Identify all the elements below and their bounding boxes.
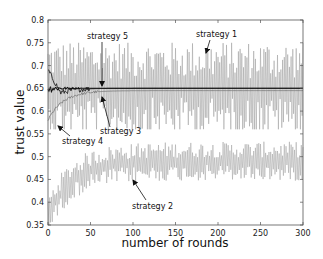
trust-value-chart: 0501001502002503000.350.40.450.50.550.60…: [0, 0, 323, 259]
x-tick-label: 250: [253, 229, 268, 238]
y-tick-label: 0.65: [26, 84, 44, 93]
y-tick-label: 0.6: [31, 107, 44, 116]
x-tick-label: 300: [295, 229, 310, 238]
y-tick-label: 0.55: [26, 130, 44, 139]
series-layer: [48, 43, 303, 225]
y-tick-label: 0.75: [26, 39, 44, 48]
annotation-strategy-2: strategy 2: [132, 202, 173, 211]
y-tick-label: 0.35: [26, 221, 44, 230]
x-tick-label: 0: [45, 229, 50, 238]
x-tick-label: 50: [85, 229, 95, 238]
y-tick-label: 0.45: [26, 175, 44, 184]
arrow-strategy-2: [133, 180, 146, 200]
annotation-strategy-4: strategy 4: [62, 137, 103, 146]
y-axis-label: trust value: [13, 90, 27, 155]
annotation-strategy-3: strategy 3: [100, 127, 141, 136]
x-axis-label: number of rounds: [121, 236, 228, 250]
y-tick-label: 0.4: [31, 198, 44, 207]
y-tick-label: 0.7: [31, 62, 44, 71]
annotation-strategy-1: strategy 1: [196, 30, 237, 39]
annotation-strategy-5: strategy 5: [87, 32, 128, 41]
series-strategy-2: [48, 142, 303, 226]
y-tick-label: 0.8: [31, 16, 44, 25]
y-tick-label: 0.5: [31, 153, 44, 162]
arrow-strategy-1: [206, 40, 210, 53]
